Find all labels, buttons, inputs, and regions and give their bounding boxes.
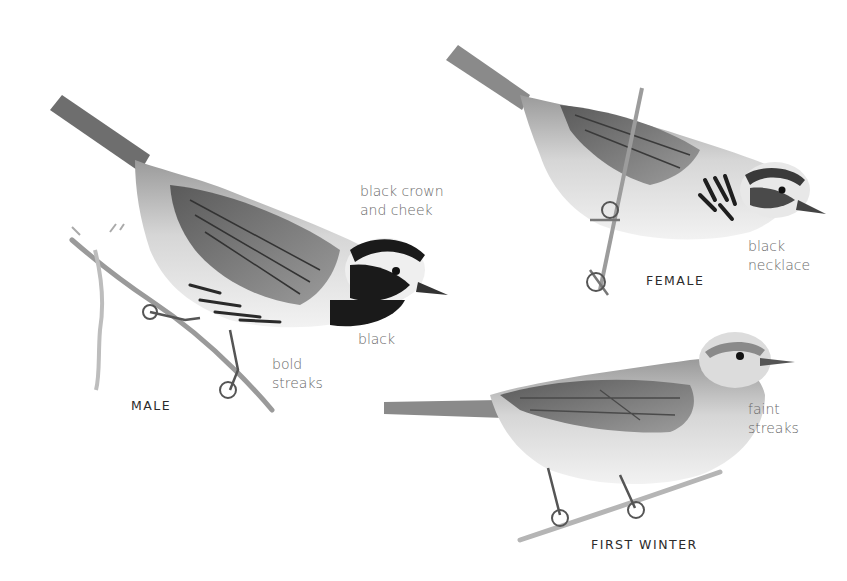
annotation-black-necklace: black necklace: [748, 237, 810, 275]
caption-female: FEMALE: [646, 273, 704, 288]
annotation-bold-streaks: bold streaks: [272, 355, 323, 393]
first-winter-bird-drawing: [384, 332, 795, 540]
caption-male: MALE: [131, 398, 171, 413]
annotation-black-crown-and-cheek: black crown and cheek: [360, 182, 444, 220]
annotation-black-throat: black: [358, 330, 395, 349]
bird-drawings: [0, 0, 847, 581]
male-bird-drawing: [50, 95, 448, 410]
caption-first-winter: FIRST WINTER: [591, 537, 698, 552]
bird-illustration-plate: black crown and cheek black bold streaks…: [0, 0, 847, 581]
annotation-faint-streaks: faint streaks: [748, 400, 799, 438]
